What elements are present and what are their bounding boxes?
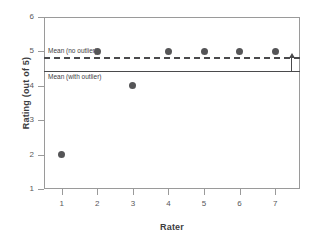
plot-area (44, 17, 300, 189)
x-tick-label: 3 (123, 199, 143, 208)
mean-shift-arrow-icon (291, 57, 292, 71)
data-point (94, 48, 101, 55)
mean-no-outlier-line (44, 57, 300, 59)
y-tick-mark (38, 189, 44, 190)
y-tick-label: 6 (16, 13, 34, 21)
mean-with-outlier-label: Mean (with outlier) (48, 73, 101, 81)
y-tick-label: 1 (16, 185, 34, 193)
x-tick-label: 5 (194, 199, 214, 208)
x-tick-mark (133, 189, 134, 195)
x-tick-mark (240, 189, 241, 195)
y-tick-mark (38, 120, 44, 121)
x-axis-title: Rater (44, 222, 300, 232)
x-tick-label: 6 (230, 199, 250, 208)
mean-no-outlier-label: Mean (no outlier) (48, 47, 97, 55)
x-tick-label: 4 (158, 199, 178, 208)
data-point (272, 48, 279, 55)
y-tick-mark (38, 86, 44, 87)
x-tick-label: 7 (265, 199, 285, 208)
mean-with-outlier-line (44, 71, 300, 72)
x-tick-label: 1 (52, 199, 72, 208)
data-point (236, 48, 243, 55)
x-tick-mark (275, 189, 276, 195)
data-point (201, 48, 208, 55)
data-point (165, 48, 172, 55)
x-tick-label: 2 (87, 199, 107, 208)
y-tick-mark (38, 17, 44, 18)
y-tick-mark (38, 51, 44, 52)
y-tick-mark (38, 155, 44, 156)
scatter-chart-figure: 654321 1234567 Mean (no outlier) Mean (w… (0, 0, 315, 243)
x-tick-mark (97, 189, 98, 195)
x-tick-mark (62, 189, 63, 195)
x-tick-mark (204, 189, 205, 195)
y-axis-title: Rating (out of 5) (21, 23, 31, 163)
x-tick-mark (168, 189, 169, 195)
